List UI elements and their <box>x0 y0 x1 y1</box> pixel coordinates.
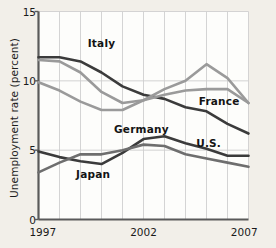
series-label-france: France <box>199 95 240 107</box>
series-label-italy: Italy <box>88 37 115 49</box>
unemployment-rate-line-chart: Unemployment rate (percent) 051015 19972… <box>0 0 276 248</box>
series-label-germany: Germany <box>114 123 169 135</box>
x-tick-label: 2007 <box>231 226 258 238</box>
x-tick-label: 2002 <box>130 226 157 238</box>
series-label-japan: Japan <box>76 168 110 180</box>
x-tick-label: 1997 <box>29 226 56 238</box>
series-label-us: U.S. <box>196 137 221 149</box>
